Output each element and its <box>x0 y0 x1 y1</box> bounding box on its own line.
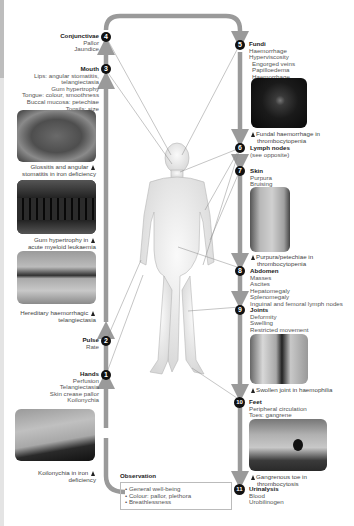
caption-line: Fundal haemorrhage in <box>256 130 320 137</box>
caption-koilonychia: Koilonychia in iron deficiency <box>0 470 96 484</box>
triangle-marker-icon <box>251 255 255 260</box>
badge-abdomen: 8 <box>235 266 245 276</box>
site-lymph-nodes: Lymph nodes (see opposite) <box>250 145 350 158</box>
photo-hereditary-telangiectasia <box>17 251 96 304</box>
photo-gum-hypertrophy <box>17 180 96 234</box>
site-feet: Feet Peripheral circulation Toes: gangre… <box>249 399 353 419</box>
site-pulse: Pulse Rate <box>39 337 99 350</box>
site-item: Rate <box>39 344 99 351</box>
site-urinalysis: Urinalysis Blood Urobilinogen <box>249 486 349 506</box>
caption-line: Gum hypertrophy in <box>34 236 88 243</box>
triangle-marker-icon <box>91 238 95 243</box>
badge-fundi: 5 <box>235 40 245 50</box>
site-item: (see opposite) <box>250 152 350 159</box>
observation-title: Observation <box>120 472 232 479</box>
badge-pulse: 2 <box>101 336 111 346</box>
photo-fundal-haemorrhage <box>251 78 307 128</box>
site-item: Koilonychia <box>19 397 99 404</box>
caption-gum-hypertrophy: Gum hypertrophy in acute myeloid leukaem… <box>0 237 96 251</box>
caption-line: stomatitis in iron deficiency <box>0 171 96 178</box>
site-item: Urobilinogen <box>249 499 349 506</box>
caption-line: Glossitis and angular <box>30 163 88 170</box>
site-fundi: Fundi Haemorrhage Hyperviscosity Engorge… <box>249 41 349 81</box>
site-skin: Skin Purpura Bruising <box>250 168 350 188</box>
triangle-marker-icon <box>91 165 95 170</box>
observation-box: • General well-being • Colour: pallor, p… <box>120 482 232 510</box>
observation-item: Breathlessness <box>129 498 171 505</box>
site-mouth: Mouth Lips: angular stomatitis, telangie… <box>0 66 99 112</box>
caption-line: Gangrenous toe in <box>256 473 307 480</box>
caption-line: Purpura/petechiae in <box>256 253 313 260</box>
photo-glossitis <box>17 110 96 162</box>
triangle-marker-icon <box>251 388 255 393</box>
site-item: Toes: gangrene <box>249 412 353 419</box>
caption-line: deficiency <box>0 477 96 484</box>
caption-line: Koilonychia in iron <box>38 469 88 476</box>
caption-glossitis: Glossitis and angular stomatitis in iron… <box>0 164 96 178</box>
badge-conjunctivae: 4 <box>101 32 111 42</box>
badge-feet: 10 <box>234 397 245 408</box>
badge-joints: 9 <box>235 305 245 315</box>
badge-hands: 1 <box>101 370 111 380</box>
site-joints: Joints Deformity Swelling Restricted mov… <box>250 307 350 333</box>
caption-line: Hereditary haemorrhagic <box>20 309 88 316</box>
human-body-figure <box>140 143 214 374</box>
site-item: Restricted movement <box>250 327 350 334</box>
triangle-marker-icon <box>251 475 255 480</box>
caption-line: Swollen joint in haemophilia <box>256 386 332 393</box>
triangle-marker-icon <box>251 132 255 137</box>
badge-skin: 7 <box>235 166 245 176</box>
caption-line: acute myeloid leukaemia <box>0 244 96 251</box>
site-item: Jaundice <box>9 46 99 53</box>
caption-hht: Hereditary haemorrhagic telangiectasia <box>0 310 96 324</box>
photo-purpura <box>250 187 290 252</box>
badge-urinalysis: 11 <box>234 484 245 495</box>
triangle-marker-icon <box>91 471 95 476</box>
caption-line: telangiectasia <box>0 317 96 324</box>
caption-purpura: Purpura/petechiae in thrombocytopenia <box>250 254 350 268</box>
site-conjunctivae: Conjunctivae Pallor Jaundice <box>9 33 99 53</box>
site-hands: Hands Perfusion Telangiectasia Skin crea… <box>19 371 99 404</box>
caption-joint: Swollen joint in haemophilia <box>250 387 354 394</box>
site-abdomen: Abdomen Masses Ascites Hepatomegaly Sple… <box>250 268 354 308</box>
photo-koilonychia <box>15 409 95 461</box>
badge-lymph-nodes: 6 <box>235 143 245 153</box>
caption-fundal: Fundal haemorrhage in thrombocytopenia <box>250 131 350 145</box>
photo-swollen-joint <box>250 334 308 384</box>
badge-mouth: 3 <box>101 64 111 74</box>
photo-gangrenous-toe <box>249 419 327 471</box>
observation-panel: Observation • General well-being • Colou… <box>120 472 232 510</box>
triangle-marker-icon <box>91 311 95 316</box>
